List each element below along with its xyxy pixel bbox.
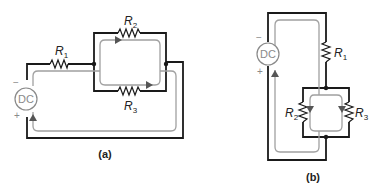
negative-terminal-label: − (13, 77, 19, 88)
negative-terminal-label: − (256, 32, 262, 43)
junction-dot (324, 86, 328, 90)
caption-b: (b) (306, 171, 320, 183)
resistor-b-r1 (322, 42, 330, 62)
circuit-figure: DC − + R1 R2 R3 (a) DC − + R1 (0, 0, 378, 192)
panel-b: DC − + R1 R2 R3 (b) (256, 13, 369, 183)
junction-dot (324, 135, 328, 139)
r2-label-b: R2 (285, 106, 299, 122)
dc-label: DC (260, 48, 276, 60)
junction-dot (92, 62, 96, 66)
current-path-a-outer (33, 71, 176, 131)
r3-label-b: R3 (355, 106, 369, 122)
resistor-b-r3 (345, 102, 353, 122)
arrow-icon (115, 36, 122, 44)
current-path-a-left (33, 71, 100, 86)
arrow-icon (29, 114, 37, 121)
resistor-b-r2 (299, 102, 307, 122)
r2-label-a: R2 (124, 14, 138, 30)
current-path-b-loop (310, 95, 342, 131)
wire-a-parallel-box (94, 33, 166, 91)
caption-a: (a) (98, 148, 112, 160)
positive-terminal-label: + (14, 110, 20, 121)
resistor-a-r2 (118, 29, 140, 37)
current-path-b-outer (275, 70, 319, 152)
dc-label: DC (18, 93, 34, 105)
resistor-a-r3 (118, 87, 140, 95)
arrow-icon (146, 81, 153, 89)
junction-dot (164, 62, 168, 66)
arrow-icon (306, 106, 314, 113)
panel-a: DC − + R1 R2 R3 (a) (13, 14, 183, 160)
positive-terminal-label: + (257, 66, 263, 77)
arrow-icon (271, 70, 279, 77)
resistor-a-r1 (50, 60, 68, 68)
current-path-b-top (275, 20, 319, 95)
r1-label-a: R1 (55, 44, 69, 60)
current-path-a-loop (100, 40, 160, 85)
r1-label-b: R1 (334, 46, 348, 62)
r3-label-a: R3 (124, 99, 138, 115)
